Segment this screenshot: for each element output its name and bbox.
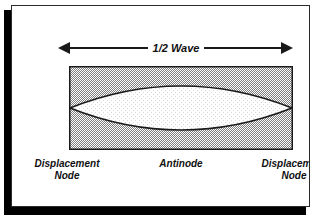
diagram-panel: 1/2 Wave bbox=[11, 5, 310, 207]
half-wave-label: 1/2 Wave bbox=[142, 39, 210, 57]
arrowhead-right-icon bbox=[281, 42, 293, 54]
label-displacement-node-right: Displacement Node bbox=[257, 158, 310, 182]
label-line-2: Node bbox=[30, 170, 104, 182]
arrow-shaft-right bbox=[204, 47, 283, 49]
diagram-canvas: 1/2 Wave bbox=[0, 0, 322, 222]
label-displacement-node-left: Displacement Node bbox=[30, 158, 104, 182]
label-line-2: Node bbox=[257, 170, 310, 182]
label-line-1: Displacement bbox=[34, 158, 99, 169]
standing-wave-box bbox=[69, 66, 293, 150]
arrow-shaft-left bbox=[69, 47, 148, 49]
label-line-1: Antinode bbox=[159, 158, 202, 169]
label-line-1: Displacement bbox=[261, 158, 310, 169]
half-wave-dimension-arrow: 1/2 Wave bbox=[58, 39, 293, 57]
label-antinode: Antinode bbox=[145, 158, 217, 170]
